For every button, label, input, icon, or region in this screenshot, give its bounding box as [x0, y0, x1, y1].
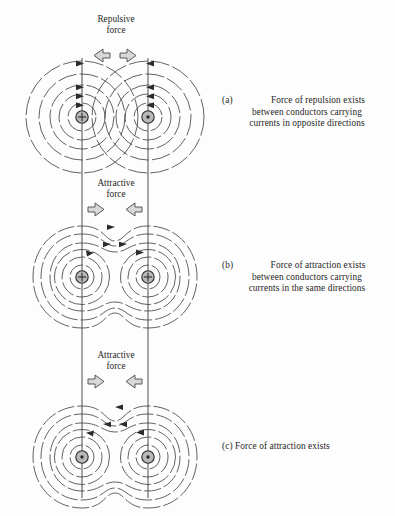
- force-arrow-a-left: [94, 49, 110, 62]
- diagram-a: [26, 61, 204, 173]
- conductor-b-left: [76, 271, 88, 283]
- force-arrow-c-left: [88, 375, 104, 388]
- force-arrow-b-right: [126, 203, 142, 216]
- conductor-b-right: [142, 271, 154, 283]
- magnetic-field-figure: [0, 0, 395, 516]
- force-label-a-line2: force: [56, 25, 176, 36]
- caption-a-line2: between conductors carrying: [222, 107, 392, 119]
- field-lines-c-inner: [55, 430, 176, 485]
- caption-a: (a) Force of repulsion exists between co…: [222, 95, 392, 130]
- force-arrow-c-right: [126, 375, 142, 388]
- field-direction-arrows-a-left: [76, 61, 84, 109]
- force-arrows-b: [88, 203, 142, 216]
- caption-a-line3: currents in opposite directions: [222, 118, 392, 130]
- field-lines-b-inner: [55, 250, 176, 305]
- force-label-b-line2: force: [56, 189, 176, 200]
- force-arrows-a: [94, 49, 136, 62]
- caption-b-tag: (b): [222, 260, 244, 272]
- force-label-a: Repulsive force: [56, 14, 176, 36]
- conductor-c-right: [142, 451, 154, 463]
- force-arrow-b-left: [88, 203, 104, 216]
- caption-b-line1: Force of attraction exists: [244, 260, 392, 272]
- force-label-c-line1: Attractive: [56, 350, 176, 361]
- caption-b-line3: currents in the same directions: [222, 283, 392, 295]
- force-arrows-c: [88, 375, 142, 388]
- caption-b-line2: between conductors carrying: [222, 272, 392, 284]
- caption-c: (c) Force of attraction exists: [222, 441, 392, 453]
- diagram-b: [33, 225, 197, 329]
- caption-b: (b) Force of attraction exists between c…: [222, 260, 392, 295]
- force-label-c-line2: force: [56, 361, 176, 372]
- caption-c-tag: (c): [222, 441, 233, 451]
- field-lines-b-merged: [33, 226, 197, 328]
- force-label-b: Attractive force: [56, 178, 176, 200]
- force-label-c: Attractive force: [56, 350, 176, 372]
- force-label-a-line1: Repulsive: [56, 14, 176, 25]
- conductor-a-right: [142, 111, 154, 123]
- force-label-b-line1: Attractive: [56, 178, 176, 189]
- conductor-c-left: [76, 451, 88, 463]
- force-arrow-a-right: [120, 49, 136, 62]
- caption-a-tag: (a): [222, 95, 244, 107]
- diagram-c: [33, 405, 197, 509]
- caption-c-line1: Force of attraction exists: [235, 441, 330, 451]
- conductor-a-left: [76, 111, 88, 123]
- caption-a-line1: Force of repulsion exists: [244, 95, 392, 107]
- field-direction-arrows-a-right: [146, 61, 154, 109]
- field-lines-c-merged: [33, 406, 197, 508]
